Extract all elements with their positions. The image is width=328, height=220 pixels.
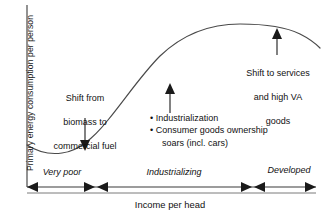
annotation-left-line-1: Shift from [66, 93, 105, 103]
annotation-left-line-2: biomass to [63, 117, 107, 127]
segment-label-very-poor: Very poor [30, 167, 94, 177]
annotation-shift-from-biomass: Shift from biomass to commercial fuel [32, 80, 138, 153]
energy-consumption-chart: Primary energy consumption per person Sh… [0, 0, 328, 220]
annotation-right-line-2: and high VA [254, 92, 302, 102]
annotation-right-line-1: Shift to services [246, 68, 310, 78]
x-axis-left-arrow-head [27, 182, 38, 192]
bullet-item-industrialization-label: Industrialization [156, 113, 219, 123]
annotation-shift-to-services: Shift to services and high VA goods [228, 55, 328, 128]
annotation-left-line-3: commercial fuel [53, 141, 116, 151]
x-axis-title: Income per head [24, 199, 316, 210]
right-annotation-arrow-head [272, 28, 282, 39]
segment-divider-1-left-head [84, 182, 95, 192]
annotation-right-line-3: goods [266, 116, 291, 126]
segment-divider-1-right-head [97, 182, 108, 192]
segment-divider-2-left-head [241, 182, 252, 192]
bullet-item-consumer-goods-label-cont: soars (incl. cars) [162, 138, 228, 148]
x-axis-right-arrow-head [305, 182, 316, 192]
segment-divider-2-right-head [254, 182, 265, 192]
segment-label-industrializing: Industrializing [100, 167, 248, 177]
bullet-item-consumer-goods: • Consumer goods ownership soars (incl. … [150, 124, 318, 149]
middle-annotation-arrow-head [165, 83, 175, 94]
segment-label-developed: Developed [256, 165, 322, 175]
